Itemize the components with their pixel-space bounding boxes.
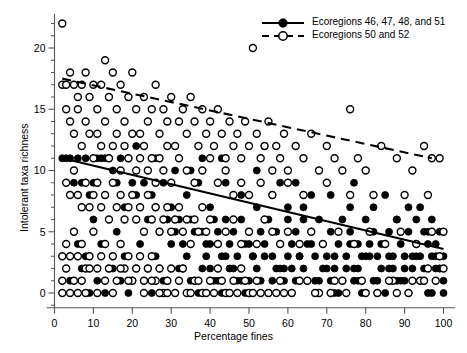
data-point: [323, 143, 330, 150]
data-point: [203, 130, 210, 137]
x-tick-label: 10: [88, 317, 100, 329]
data-point: [137, 155, 144, 162]
data-point: [257, 228, 264, 235]
plot-canvas: 051015200102030405060708090100: [0, 0, 467, 353]
data-point: [125, 253, 132, 260]
data-point: [222, 167, 229, 174]
data-point: [269, 167, 276, 174]
data-point: [148, 155, 155, 162]
data-point: [253, 130, 260, 137]
data-point: [273, 265, 280, 272]
data-point: [374, 253, 381, 260]
data-point: [308, 192, 315, 199]
data-point: [424, 290, 431, 297]
x-tick-label: 50: [243, 317, 255, 329]
data-point: [113, 277, 120, 284]
data-point: [378, 265, 385, 272]
y-tick-label: 15: [34, 103, 46, 115]
data-point: [207, 241, 214, 248]
data-point: [172, 143, 179, 150]
data-point: [168, 241, 175, 248]
data-point: [242, 277, 249, 284]
data-point: [296, 241, 303, 248]
data-point: [102, 241, 109, 248]
data-point: [246, 241, 253, 248]
x-tick-label: 60: [282, 317, 294, 329]
data-point: [246, 192, 253, 199]
data-point: [238, 192, 245, 199]
legend-label-ecoregions-filled: Ecoregions 46, 47, 48, and 51: [312, 16, 445, 27]
data-point: [82, 290, 89, 297]
data-point: [175, 277, 182, 284]
data-point: [117, 155, 124, 162]
data-point: [440, 265, 447, 272]
data-point: [397, 228, 404, 235]
data-point: [102, 290, 109, 297]
data-point: [424, 192, 431, 199]
data-point: [207, 204, 214, 211]
data-point: [183, 192, 190, 199]
data-point: [191, 118, 198, 125]
data-point: [90, 192, 97, 199]
data-point: [125, 155, 132, 162]
data-point: [249, 45, 256, 52]
data-point: [199, 155, 206, 162]
data-point: [148, 253, 155, 260]
data-point: [187, 290, 194, 297]
data-point: [113, 204, 120, 211]
data-point: [393, 290, 400, 297]
data-point: [424, 265, 431, 272]
data-point: [238, 155, 245, 162]
data-point: [288, 241, 295, 248]
data-point: [183, 130, 190, 137]
data-point: [277, 179, 284, 186]
data-point: [86, 94, 93, 101]
data-point: [288, 290, 295, 297]
data-point: [428, 228, 435, 235]
data-point: [261, 253, 268, 260]
data-point: [246, 228, 253, 235]
data-point: [195, 228, 202, 235]
data-point: [440, 277, 447, 284]
data-point: [105, 94, 112, 101]
data-point: [74, 192, 81, 199]
data-point: [70, 130, 77, 137]
data-point: [343, 265, 350, 272]
x-tick-label: 0: [52, 317, 58, 329]
data-point: [98, 204, 105, 211]
data-point: [331, 253, 338, 260]
data-point: [172, 290, 179, 297]
data-point: [191, 216, 198, 223]
x-axis-label: Percentage fines: [0, 330, 467, 342]
data-point: [207, 118, 214, 125]
data-point: [207, 155, 214, 162]
data-point: [207, 216, 214, 223]
data-point: [113, 228, 120, 235]
data-point: [70, 179, 77, 186]
data-point: [179, 106, 186, 113]
data-point: [331, 277, 338, 284]
data-point: [366, 241, 373, 248]
data-point: [109, 253, 116, 260]
data-point: [207, 265, 214, 272]
data-point: [370, 192, 377, 199]
data-point: [164, 118, 171, 125]
data-point: [347, 228, 354, 235]
data-point: [222, 228, 229, 235]
data-point: [74, 106, 81, 113]
data-point: [284, 204, 291, 211]
data-point: [284, 228, 291, 235]
data-point: [140, 228, 147, 235]
data-point: [386, 228, 393, 235]
data-point: [67, 253, 74, 260]
data-point: [175, 155, 182, 162]
data-point: [304, 277, 311, 284]
data-point: [203, 290, 210, 297]
data-point: [249, 290, 256, 297]
data-point: [156, 265, 163, 272]
data-point: [327, 290, 334, 297]
data-point: [90, 155, 97, 162]
data-point: [94, 265, 101, 272]
data-point: [164, 143, 171, 150]
data-point: [199, 204, 206, 211]
